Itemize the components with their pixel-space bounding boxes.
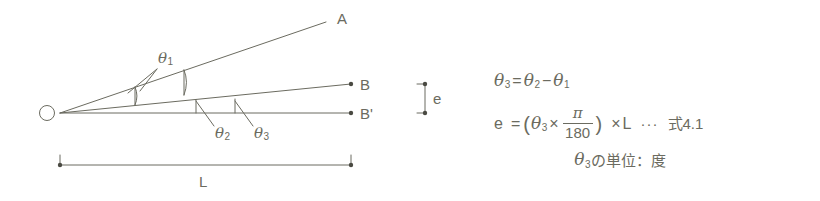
- equation-block: θ3 = θ2 − θ1 e = ( θ3 × π 180 ) × L ··· …: [494, 72, 820, 170]
- eq2-denominator: 180: [565, 124, 590, 142]
- leader-theta1-b: [140, 69, 157, 91]
- point-o-circle: [40, 106, 55, 121]
- eq3-unit-text: の単位：度: [591, 153, 666, 168]
- eq2-length: L: [623, 116, 632, 132]
- theta1-subscript: 1: [168, 56, 174, 67]
- label-length-l: L: [199, 174, 207, 189]
- eq3-theta: θ3: [574, 151, 590, 169]
- eq2-theta: θ3: [531, 115, 547, 133]
- eq2-lhs: e: [494, 116, 503, 132]
- label-point-b: B: [360, 77, 370, 92]
- eq2-fraction: π 180: [563, 106, 593, 141]
- equation-line-3-unit-note: θ3 の単位：度: [494, 151, 820, 169]
- equation-line-2: e = ( θ3 × π 180 ) × L ··· 式4.1: [494, 106, 820, 141]
- equation-reference: 式4.1: [668, 116, 704, 131]
- eq1-equals: =: [512, 73, 521, 89]
- label-theta2: θ2: [215, 126, 230, 142]
- eq2-open-paren: (: [523, 114, 530, 134]
- eq1-minus: −: [542, 73, 551, 89]
- label-theta1: θ1: [158, 51, 173, 67]
- theta1-symbol: θ: [158, 49, 167, 67]
- theta2-subscript: 2: [225, 131, 231, 142]
- label-point-a: A: [337, 11, 347, 26]
- theta3-subscript: 3: [264, 131, 270, 142]
- theta2-symbol: θ: [215, 124, 224, 142]
- eq2-times-1: ×: [549, 116, 558, 132]
- label-theta3: θ3: [254, 126, 269, 142]
- eq2-ellipsis: ···: [641, 116, 659, 131]
- eq1-term-a: θ2: [524, 72, 540, 90]
- label-offset-e: e: [433, 91, 441, 106]
- e-bracket-bottom-dot: [423, 111, 427, 115]
- eq2-close-paren: ): [596, 114, 603, 134]
- eq1-term-b: θ1: [553, 72, 569, 90]
- dim-endpoint-left-dot: [58, 163, 62, 167]
- dim-endpoint-right-dot: [349, 163, 353, 167]
- label-point-b-prime: B': [360, 106, 373, 121]
- eq2-equals: =: [511, 116, 520, 132]
- theta3-symbol: θ: [254, 124, 263, 142]
- eq1-lhs: θ3: [494, 72, 510, 90]
- eq2-numerator: π: [573, 106, 583, 123]
- eq2-times-2: ×: [611, 116, 620, 132]
- e-bracket-top-dot: [423, 82, 427, 86]
- figure-container: A B B' θ1 θ2 θ3 L e θ3 = θ2 − θ1 e = ( θ…: [0, 0, 820, 201]
- point-b-prime-dot: [349, 111, 353, 115]
- point-b-dot: [349, 82, 353, 86]
- equation-line-1: θ3 = θ2 − θ1: [494, 72, 820, 90]
